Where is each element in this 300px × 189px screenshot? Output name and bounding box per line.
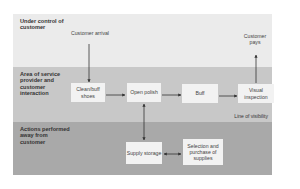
arrows-layer [0, 0, 300, 189]
